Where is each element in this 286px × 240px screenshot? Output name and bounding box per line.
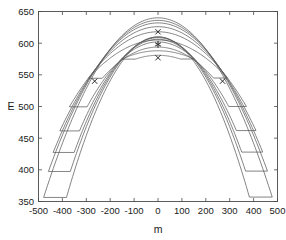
xtick-label-400: 400: [246, 205, 262, 216]
xtick-label--100: -100: [125, 205, 144, 216]
xtick-label-200: 200: [198, 205, 214, 216]
ytick-label-550: 550: [18, 69, 34, 80]
marker-left-bound: [92, 79, 97, 84]
marker-lower-bound: [155, 55, 160, 60]
xtick-label--400: -400: [53, 205, 72, 216]
ytick-label-450: 450: [18, 133, 34, 144]
contour-plot-figure: -500-400-300-200-10001002003004005003504…: [0, 0, 286, 240]
xtick-label-300: 300: [222, 205, 238, 216]
ytick-label-500: 500: [18, 101, 34, 112]
ytick-label-650: 650: [18, 6, 34, 17]
ytick-label-400: 400: [18, 164, 34, 175]
xtick-label-500: 500: [270, 205, 286, 216]
y-axis-title: E: [7, 100, 14, 112]
xtick-label--200: -200: [101, 205, 120, 216]
plot-canvas: -500-400-300-200-10001002003004005003504…: [0, 0, 286, 240]
xtick-label-100: 100: [174, 205, 190, 216]
ytick-label-600: 600: [18, 38, 34, 49]
xtick-label-0: 0: [155, 205, 160, 216]
marker-right-bound: [220, 79, 225, 84]
ytick-label-350: 350: [18, 196, 34, 207]
xtick-label--300: -300: [77, 205, 96, 216]
x-axis-title: m: [154, 223, 163, 235]
